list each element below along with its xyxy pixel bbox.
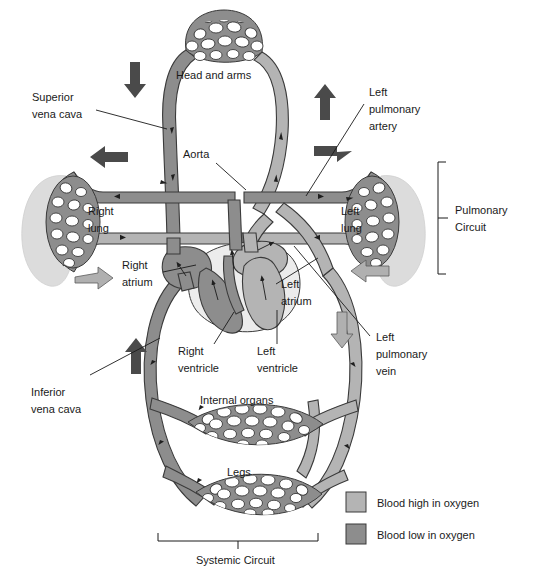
label-right-ventricle-line1: Right: [178, 345, 204, 357]
heart: [162, 200, 300, 333]
label-superior-vena-cava-line2: vena cava: [32, 108, 83, 120]
label-left-atrium-line1: Left: [281, 278, 299, 290]
leader-aorta: [216, 163, 246, 190]
legend: Blood high in oxygen Blood low in oxygen: [346, 492, 479, 544]
head-down-arrow: [124, 62, 146, 98]
systemic-circuit-bracket: [158, 533, 318, 549]
label-left-pulmonary-vein-line2: pulmonary: [376, 348, 428, 360]
figure-canvas: Blood high in oxygen Blood low in oxygen…: [0, 0, 543, 573]
capillary-bed-head-and-arms: [186, 10, 263, 62]
label-left-ventricle-line2: ventricle: [257, 362, 298, 374]
capillary-bed-legs: [196, 474, 322, 517]
right-lung-in-arrow: [90, 146, 128, 168]
label-left-atrium-line2: atrium: [281, 295, 312, 307]
pulmonary-circuit-bracket: [438, 162, 448, 274]
label-left-lung-line2: lung: [341, 222, 362, 234]
label-head-and-arms: Head and arms: [176, 69, 252, 81]
label-right-lung-line1: Right: [88, 205, 114, 217]
label-left-pulmonary-vein-line3: vein: [376, 365, 396, 377]
label-legs: Legs: [227, 466, 251, 478]
label-systemic-circuit: Systemic Circuit: [196, 554, 275, 566]
label-left-pulmonary-vein-line1: Left: [376, 331, 394, 343]
label-left-pulmonary-artery-line1: Left: [369, 86, 387, 98]
label-right-ventricle-line2: ventricle: [178, 362, 219, 374]
label-superior-vena-cava-line1: Superior: [32, 91, 74, 103]
label-right-lung-line2: lung: [88, 222, 109, 234]
legend-label-high-oxygen: Blood high in oxygen: [377, 497, 479, 509]
label-aorta: Aorta: [183, 148, 210, 160]
label-pulmonary-circuit-line1: Pulmonary: [455, 204, 508, 216]
label-inferior-vena-cava-line1: Inferior: [31, 386, 66, 398]
label-left-pulmonary-artery-line2: pulmonary: [369, 103, 421, 115]
legend-swatch-low-oxygen: [346, 524, 366, 544]
legend-label-low-oxygen: Blood low in oxygen: [377, 529, 475, 541]
label-left-ventricle-line1: Left: [257, 345, 275, 357]
aorta-to-head-vessel: [253, 52, 288, 214]
descending-aorta-vessel: [304, 268, 362, 508]
label-inferior-vena-cava-line2: vena cava: [31, 403, 82, 415]
label-right-atrium-line1: Right: [122, 259, 148, 271]
head-up-arrow: [314, 84, 336, 120]
right-lung-out-arrow: [75, 267, 113, 289]
capillary-bed-internal-organs: [188, 404, 323, 448]
leader-superior-vena-cava: [96, 110, 167, 129]
label-pulmonary-circuit-line2: Circuit: [455, 221, 486, 233]
label-left-pulmonary-artery-line3: artery: [369, 120, 398, 132]
label-internal-organs: Internal organs: [200, 394, 274, 406]
legend-swatch-high-oxygen: [346, 492, 366, 512]
label-right-atrium-line2: atrium: [122, 276, 153, 288]
circulatory-system-diagram: Blood high in oxygen Blood low in oxygen…: [0, 0, 543, 573]
label-left-lung-line1: Left: [341, 205, 359, 217]
